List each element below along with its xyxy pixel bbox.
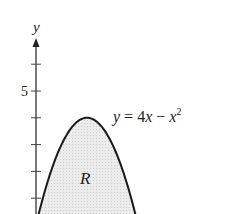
region-label: R xyxy=(79,169,91,188)
y-axis-arrow-icon xyxy=(33,38,40,47)
parabola-region-figure: y 5 y = 4x − x2 R xyxy=(0,0,240,214)
tick-label-5: 5 xyxy=(21,84,28,99)
y-axis-label: y xyxy=(31,19,40,35)
curve-equation-label: y = 4x − x2 xyxy=(111,106,181,126)
region-r-fill xyxy=(36,118,138,214)
